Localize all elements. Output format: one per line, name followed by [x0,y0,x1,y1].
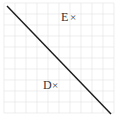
diagram-canvas: E×D× [0,0,117,117]
point-label-e: E [61,10,68,24]
grid-diagram: E×D× [0,0,117,117]
cross-marker-icon: × [70,11,76,23]
cross-marker-icon: × [52,79,58,91]
point-label-d: D [43,78,52,92]
